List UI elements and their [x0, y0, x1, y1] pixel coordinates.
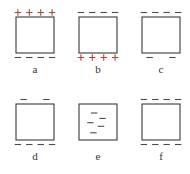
positive-charge-icon: [38, 9, 44, 15]
conductor-box: [142, 17, 180, 53]
panel-a: a: [15, 9, 56, 75]
positive-charge-icon: [26, 9, 32, 15]
positive-charge-icon: [49, 9, 55, 15]
panel-b: b: [78, 13, 119, 76]
conductor-box: [79, 104, 117, 140]
positive-charge-icon: [15, 9, 21, 15]
panel-e: e: [79, 104, 117, 162]
positive-charge-icon: [89, 54, 95, 60]
panel-label: c: [159, 63, 164, 75]
positive-charge-icon: [112, 54, 118, 60]
panel-label: b: [95, 63, 101, 75]
panel-c: c: [141, 13, 182, 76]
conductor-box: [16, 17, 54, 53]
charge-distribution-figure: a b c d e f: [0, 0, 190, 174]
conductor-box: [16, 104, 54, 140]
panel-label: a: [33, 63, 38, 75]
positive-charge-icon: [101, 54, 107, 60]
panel-d: d: [15, 100, 56, 163]
panel-label: f: [159, 150, 163, 162]
panel-label: d: [32, 150, 38, 162]
positive-charge-icon: [78, 54, 84, 60]
panel-f: f: [141, 100, 182, 163]
conductor-box: [142, 104, 180, 140]
panel-label: e: [96, 150, 101, 162]
conductor-box: [79, 17, 117, 53]
